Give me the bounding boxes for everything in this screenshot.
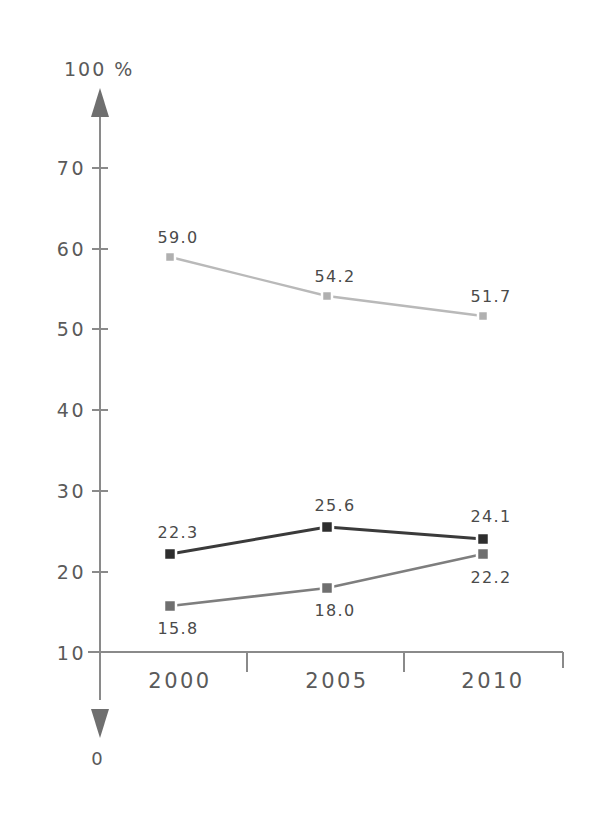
y-tick-label-40: 40 [57,399,86,421]
series-dark: 22.3 25.6 24.1 [157,496,511,560]
y-tick-label-60: 60 [57,238,86,260]
series-light-line [170,257,483,316]
y-tick-label-50: 50 [57,318,86,340]
chart-canvas: 70 60 50 40 30 20 10 100 % 0 2000 2005 2… [0,0,602,817]
series-dark-marker-2010 [477,533,489,545]
series-light-value-2010: 51.7 [470,287,511,306]
series-medium-value-2010: 22.2 [470,568,511,587]
series-medium-marker-2005 [321,582,333,594]
series-medium-marker-2010 [477,548,489,560]
series-medium-value-2005: 18.0 [314,601,355,620]
y-tick-label-20: 20 [57,561,86,583]
y-axis-up-arrow-icon [91,88,109,117]
y-axis-down-arrow-icon [91,709,109,738]
series-light-value-2000: 59.0 [157,228,198,247]
series-light: 59.0 54.2 51.7 [157,228,511,321]
x-tick-label-2005: 2005 [305,669,368,693]
series-dark-marker-2005 [321,521,333,533]
x-tick-label-2010: 2010 [461,669,524,693]
series-dark-marker-2000 [164,548,176,560]
series-light-marker-2005 [322,291,332,301]
y-tick-label-70: 70 [57,157,86,179]
x-tick-label-2000: 2000 [148,669,211,693]
series-dark-value-2005: 25.6 [314,496,355,515]
y-axis-tick-labels: 70 60 50 40 30 20 10 [57,157,86,664]
line-chart: 70 60 50 40 30 20 10 100 % 0 2000 2005 2… [0,0,602,817]
series-light-marker-2000 [165,252,175,262]
series-medium-line [170,554,483,606]
x-axis-tick-labels: 2000 2005 2010 [148,669,524,693]
series-medium-marker-2000 [164,600,176,612]
series-dark-value-2010: 24.1 [470,507,511,526]
series-light-value-2005: 54.2 [314,267,355,286]
y-axis-zero-label: 0 [91,748,102,769]
y-axis [91,88,109,738]
series-medium: 15.8 18.0 22.2 [157,548,511,638]
y-tick-label-10: 10 [57,642,86,664]
series-light-marker-2010 [478,311,488,321]
y-axis-unit-label: 100 % [64,58,134,80]
series-medium-value-2000: 15.8 [157,619,198,638]
series-dark-value-2000: 22.3 [157,523,198,542]
y-tick-label-30: 30 [57,480,86,502]
